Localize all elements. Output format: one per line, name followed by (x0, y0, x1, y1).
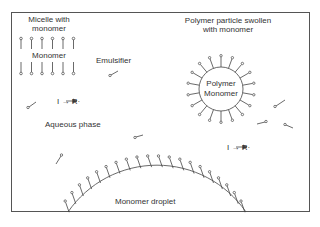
micelle-label-line2: monomer (18, 24, 80, 33)
initiator-reaction-left: I → R· (57, 97, 80, 106)
free-emulsifier-molecules (27, 71, 293, 164)
particle-label-line1: Polymer particle swollen (178, 16, 278, 25)
aqueous-phase-label: Aqueous phase (45, 120, 101, 129)
emulsifier-label: Emulsifier (96, 56, 131, 65)
particle-inner-label-monomer: Monomer (199, 89, 243, 98)
particle-inner-label-polymer: Polymer (199, 79, 243, 88)
monomer-droplet-label: Monomer droplet (115, 197, 175, 206)
emulsion-polymerization-diagram: Micelle with monomer Monomer Emulsifier … (0, 0, 320, 227)
initiator-reaction-right: I → R· (227, 143, 250, 152)
particle-label-line2: with monomer (178, 25, 278, 34)
diagram-graphics (0, 0, 320, 227)
micelle-inner-label: Monomer (18, 51, 80, 60)
micelle-label-line1: Micelle with (18, 15, 80, 24)
